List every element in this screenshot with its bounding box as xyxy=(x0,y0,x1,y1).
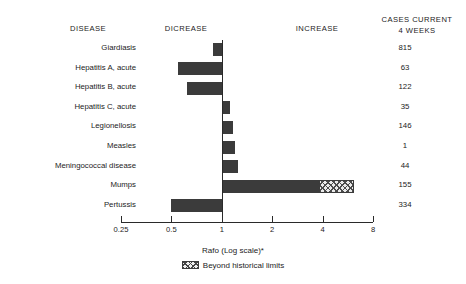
disease-label: Mumps xyxy=(0,180,136,189)
cases-value: 44 xyxy=(374,161,436,170)
x-axis-tick-label: 0.25 xyxy=(104,225,138,234)
column-header-cases-line2: 4 WEEKS xyxy=(372,26,462,37)
bar-segment xyxy=(222,160,238,173)
legend-label: Beyond historical limits xyxy=(203,261,284,270)
bar-segment xyxy=(178,62,221,75)
column-header-decrease: DICREASE xyxy=(140,24,232,33)
x-axis-tick-label: 0.5 xyxy=(154,225,188,234)
cases-value: 1 xyxy=(374,141,436,150)
disease-label: Pertussis xyxy=(0,200,136,209)
bar-segment xyxy=(213,43,222,56)
disease-label: Legionellosis xyxy=(0,121,136,130)
disease-label: Giardiasis xyxy=(0,43,136,52)
cases-value: 155 xyxy=(374,180,436,189)
chart-legend: Beyond historical limits xyxy=(0,261,466,270)
x-axis-tick xyxy=(323,216,324,222)
bar-segment xyxy=(171,199,221,212)
hatch-swatch-icon xyxy=(182,261,199,269)
x-axis-tick-label: 4 xyxy=(306,225,340,234)
x-axis-line xyxy=(121,222,373,223)
bar-segment-beyond-limits xyxy=(319,180,355,193)
bar-segment xyxy=(222,180,319,193)
cases-value: 35 xyxy=(374,102,436,111)
disease-label: Meningococcal disease xyxy=(0,161,136,170)
disease-label: Hepatitis A, acute xyxy=(0,63,136,72)
x-axis-tick-label: 2 xyxy=(255,225,289,234)
bar-segment xyxy=(222,101,230,114)
cases-value: 122 xyxy=(374,82,436,91)
x-axis-tick xyxy=(121,216,122,222)
x-axis-tick-label: 8 xyxy=(356,225,390,234)
x-axis-title: Rafo (Log scale)* xyxy=(0,246,466,255)
baseline-ratio-one xyxy=(222,40,223,222)
cases-value: 815 xyxy=(374,43,436,52)
x-axis-tick xyxy=(373,216,374,222)
column-header-disease: DISEASE xyxy=(42,24,134,33)
bar-segment xyxy=(222,121,233,134)
x-axis-tick xyxy=(171,216,172,222)
disease-ratio-chart: DISEASE DICREASE INCREASE CASES CURRENT … xyxy=(0,0,466,284)
x-axis-tick xyxy=(272,216,273,222)
bar-segment xyxy=(187,82,222,95)
cases-value: 146 xyxy=(374,121,436,130)
bar-segment xyxy=(222,141,235,154)
column-header-cases-line1: CASES CURRENT xyxy=(372,15,462,26)
x-axis-tick xyxy=(222,216,223,222)
disease-label: Hepatitis C, acute xyxy=(0,102,136,111)
cases-value: 63 xyxy=(374,63,436,72)
x-axis-tick-label: 1 xyxy=(205,225,239,234)
disease-label: Hepatitis B, acute xyxy=(0,82,136,91)
disease-label: Measles xyxy=(0,141,136,150)
column-header-increase: INCREASE xyxy=(278,24,356,33)
cases-value: 334 xyxy=(374,200,436,209)
column-header-cases: CASES CURRENT 4 WEEKS xyxy=(372,15,462,36)
